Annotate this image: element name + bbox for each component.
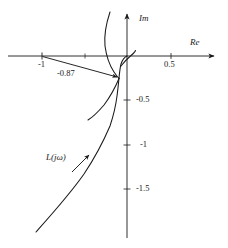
nyquist-origin-loop (121, 51, 136, 67)
nyquist-branch-upper (105, 12, 119, 79)
nyquist-plot-figure: Im Re -1 0.5 -0.5 -1 -1.5 -0.87 L(jω) (0, 0, 228, 248)
imag-tick-label--0.5: -0.5 (136, 95, 149, 104)
gain-margin-value-label: -0.87 (57, 69, 75, 78)
curve-label: L(jω) (46, 153, 66, 162)
gain-margin-vector-arrow (43, 57, 118, 78)
real-tick-label--1: -1 (38, 60, 45, 69)
nyquist-branch-hook (88, 79, 119, 121)
real-axis-label: Re (190, 38, 200, 47)
imag-tick-label--1: -1 (140, 140, 147, 149)
imag-axis-label: Im (139, 14, 149, 23)
nyquist-locus-to-origin (119, 56, 127, 78)
imag-tick-label--1.5: -1.5 (136, 184, 149, 193)
real-tick-label-0.5: 0.5 (164, 60, 175, 69)
